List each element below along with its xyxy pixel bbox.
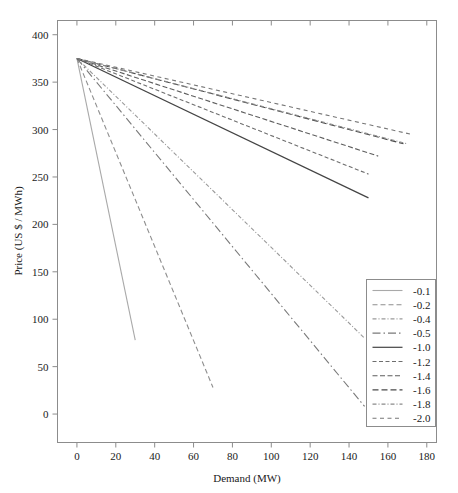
legend-label--1.6[interactable]: -1.6: [413, 384, 431, 396]
x-tick-label: 120: [302, 450, 319, 462]
y-tick-label: 400: [32, 29, 49, 41]
chart-container: 050100150200250300350400 020406080100120…: [0, 0, 458, 493]
legend-label--1.0[interactable]: -1.0: [413, 341, 431, 353]
y-tick-label: 200: [32, 218, 49, 230]
x-tick-label: 0: [74, 450, 80, 462]
legend-label--1.4[interactable]: -1.4: [413, 370, 431, 382]
legend[interactable]: -0.1-0.2-0.4-0.5-1.0-1.2-1.4-1.6-1.8-2.0: [367, 280, 436, 427]
x-tick-label: 140: [341, 450, 358, 462]
y-axis-title: Price (US $ / MWh): [12, 186, 25, 276]
y-tick-label: 150: [32, 266, 49, 278]
y-tick-label: 100: [32, 313, 49, 325]
x-tick-label: 20: [110, 450, 122, 462]
x-tick-label: 160: [380, 450, 397, 462]
x-tick-label: 80: [227, 450, 239, 462]
y-tick-label: 250: [32, 171, 49, 183]
y-tick-label: 50: [38, 361, 50, 373]
x-tick-label: 60: [188, 450, 200, 462]
legend-label--0.1[interactable]: -0.1: [413, 285, 430, 297]
x-tick-label: 100: [263, 450, 280, 462]
x-tick-label: 180: [419, 450, 436, 462]
legend-label--0.2[interactable]: -0.2: [413, 299, 430, 311]
y-tick-label: 300: [32, 124, 49, 136]
x-axis-title: Demand (MW): [213, 472, 281, 485]
legend-label--0.5[interactable]: -0.5: [413, 327, 431, 339]
legend-label--0.4[interactable]: -0.4: [413, 313, 431, 325]
y-tick-label: 350: [32, 76, 49, 88]
legend-label--1.8[interactable]: -1.8: [413, 398, 431, 410]
legend-label--1.2[interactable]: -1.2: [413, 356, 430, 368]
legend-label--2.0[interactable]: -2.0: [413, 412, 431, 424]
y-tick-label: 0: [43, 408, 49, 420]
price-demand-elasticity-chart: 050100150200250300350400 020406080100120…: [0, 0, 458, 493]
x-tick-label: 40: [149, 450, 161, 462]
